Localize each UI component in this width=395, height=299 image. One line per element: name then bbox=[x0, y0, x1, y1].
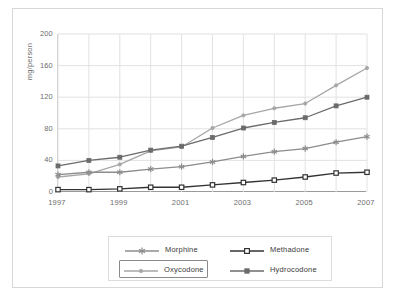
x-axis-tick-label: 2005 bbox=[284, 198, 324, 207]
data-point-marker bbox=[87, 158, 91, 162]
data-point-marker bbox=[334, 104, 338, 108]
legend-label: Methadone bbox=[265, 245, 309, 254]
data-point-marker bbox=[242, 114, 245, 117]
legend-row: Morphine Methadone bbox=[109, 240, 333, 258]
data-point-marker bbox=[87, 187, 91, 191]
legend-item-methadone[interactable]: Methadone bbox=[226, 240, 312, 258]
plot-area bbox=[57, 34, 366, 192]
legend-label: Morphine bbox=[160, 245, 198, 254]
legend-row: Oxycodone Hydrocodone bbox=[109, 260, 333, 278]
legend-item-hydrocodone[interactable]: Hydrocodone bbox=[226, 260, 320, 278]
x-axis-tick-label: 2007 bbox=[346, 198, 386, 207]
data-point-marker bbox=[118, 163, 121, 166]
data-point-marker bbox=[56, 164, 60, 168]
data-point-marker bbox=[56, 187, 60, 191]
data-point-marker bbox=[241, 126, 245, 130]
data-point-marker bbox=[365, 95, 369, 99]
data-point-marker bbox=[118, 187, 122, 191]
data-point-marker bbox=[303, 175, 307, 179]
data-point-marker bbox=[180, 144, 184, 148]
data-point-marker bbox=[118, 155, 122, 159]
data-point-marker bbox=[211, 126, 214, 129]
data-point-marker bbox=[334, 171, 338, 175]
data-point-marker bbox=[241, 180, 245, 184]
data-point-marker bbox=[304, 102, 307, 105]
x-axis-tick-label: 2001 bbox=[161, 198, 201, 207]
legend-label: Oxycodone bbox=[159, 265, 204, 274]
data-point-marker bbox=[210, 183, 214, 187]
legend-label: Hydrocodone bbox=[265, 265, 317, 274]
data-point-marker bbox=[211, 135, 215, 139]
data-point-marker bbox=[273, 107, 276, 110]
asterisk-marker-icon bbox=[124, 243, 160, 255]
data-point-marker bbox=[365, 66, 368, 69]
data-point-marker bbox=[334, 84, 337, 87]
chart-legend: Morphine Methadone Oxycodone Hydrocodone bbox=[108, 236, 332, 281]
dot-marker-icon bbox=[123, 263, 159, 275]
plot-svg bbox=[58, 34, 367, 192]
chart-page: mg/person 04080120160200 199719992001200… bbox=[0, 0, 395, 299]
data-point-marker bbox=[303, 116, 307, 120]
data-point-marker bbox=[365, 170, 369, 174]
x-axis-tick-label: 2003 bbox=[222, 198, 262, 207]
x-axis-tick-label: 1997 bbox=[37, 198, 77, 207]
x-axis-tick-label: 1999 bbox=[99, 198, 139, 207]
legend-item-morphine[interactable]: Morphine bbox=[121, 240, 201, 258]
data-point-marker bbox=[149, 148, 153, 152]
data-point-marker bbox=[272, 178, 276, 182]
filled-square-marker-icon bbox=[229, 263, 265, 275]
data-point-marker bbox=[179, 185, 183, 189]
legend-item-oxycodone[interactable]: Oxycodone bbox=[119, 260, 208, 278]
data-point-marker bbox=[149, 185, 153, 189]
open-square-marker-icon bbox=[229, 243, 265, 255]
data-point-marker bbox=[272, 120, 276, 124]
